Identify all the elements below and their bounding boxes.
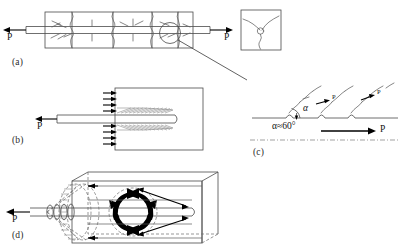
panel-b-graphics xyxy=(35,88,203,150)
figure-canvas: P P (a) P (b) α α≈60° P P P (c) P (d) xyxy=(0,0,406,252)
panel-a-left-load-label: P xyxy=(7,32,12,42)
panel-d-load-label: P xyxy=(12,214,17,224)
panel-c-angle-label: α≈60° xyxy=(272,121,296,131)
panel-c-load-label: P xyxy=(380,124,385,134)
panel-a-load-arrow-right xyxy=(210,27,233,33)
panel-c-branch-label-1: P xyxy=(332,93,336,100)
panel-d-load-arrow xyxy=(6,209,30,216)
panel-b-label: (b) xyxy=(12,135,24,145)
panel-a-right-load-label: P xyxy=(224,32,229,42)
panel-a-graphics xyxy=(0,0,406,252)
panel-c-load-arrow xyxy=(321,128,376,135)
panel-d-graphics xyxy=(6,172,218,243)
detail-inset-graphics xyxy=(241,10,281,50)
panel-c-alpha-symbol: α xyxy=(303,103,308,113)
panel-b-struts-upper xyxy=(117,108,173,113)
panel-c-label: (c) xyxy=(253,147,264,157)
panel-b-load-label: P xyxy=(37,121,42,131)
panel-a-label: (a) xyxy=(12,57,23,67)
panel-b-struts-lower xyxy=(117,125,173,130)
panel-d-label: (d) xyxy=(12,230,24,240)
panel-c-branch-label-2: P xyxy=(377,88,381,95)
panel-c-branch-arrow-1 xyxy=(316,99,330,104)
panel-c-branch-arrow-2 xyxy=(361,94,375,100)
panel-a-specimen xyxy=(26,12,247,80)
